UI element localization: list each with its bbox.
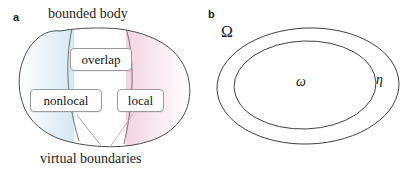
node-box-local[interactable]: local bbox=[117, 89, 164, 112]
node-box-nonlocal[interactable]: nonlocal bbox=[30, 89, 102, 112]
figure-root: a bounded body bbox=[0, 0, 406, 173]
local-region-tint bbox=[124, 26, 190, 146]
symbol-omega-lowercase: ω bbox=[296, 75, 306, 89]
panel-a-diagram bbox=[0, 0, 203, 173]
overlap-region-tint bbox=[74, 26, 126, 146]
panel-b: b Ω ω η bbox=[203, 0, 406, 173]
symbol-omega-uppercase: Ω bbox=[221, 24, 233, 40]
node-box-overlap[interactable]: overlap bbox=[70, 48, 132, 71]
virtual-boundaries-caption: virtual boundaries bbox=[40, 152, 141, 166]
panel-a: a bounded body bbox=[0, 0, 203, 173]
symbol-eta: η bbox=[376, 73, 383, 87]
